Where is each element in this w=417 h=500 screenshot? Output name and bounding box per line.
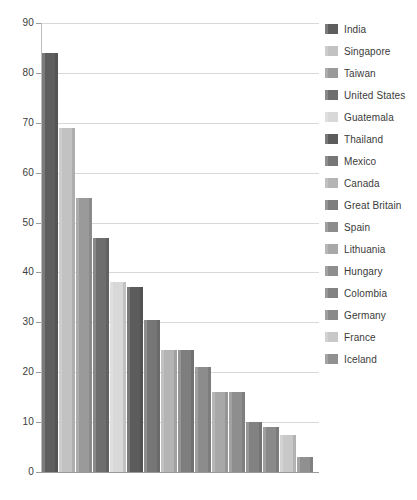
legend-swatch-icon (325, 178, 338, 188)
bar (110, 282, 126, 472)
legend-swatch-icon (325, 134, 338, 144)
legend-swatch-icon (325, 46, 338, 56)
bar (127, 287, 143, 472)
legend-item-label: Canada (344, 178, 380, 189)
bar (280, 435, 296, 472)
bar-chart: 9080706050403020100 IndiaSingaporeTaiwan… (0, 0, 417, 500)
bar (93, 238, 109, 472)
legend-swatch-icon (325, 68, 338, 78)
y-axis-tick-mark (36, 472, 41, 473)
y-axis-tick-label: 70 (4, 118, 34, 128)
legend-item[interactable]: Hungary (325, 260, 417, 282)
y-axis-tick-label: 40 (4, 267, 34, 277)
legend-item-label: Taiwan (344, 68, 376, 79)
y-axis-tick-label: 30 (4, 317, 34, 327)
legend-swatch-icon (325, 266, 338, 276)
bar (178, 350, 194, 472)
y-axis-tick-mark (36, 372, 41, 373)
y-axis-tick-mark (36, 123, 41, 124)
bar (59, 128, 75, 472)
y-axis-tick-mark (36, 272, 41, 273)
legend-item[interactable]: Colombia (325, 282, 417, 304)
legend-item-label: Great Britain (344, 200, 401, 211)
bar (246, 422, 262, 472)
y-axis-tick-label: 50 (4, 218, 34, 228)
legend-item[interactable]: France (325, 326, 417, 348)
bar (212, 392, 228, 472)
legend-item-label: Guatemala (344, 112, 394, 123)
legend-item-label: Germany (344, 310, 386, 321)
y-axis-tick-labels: 9080706050403020100 (0, 0, 34, 500)
legend-swatch-icon (325, 156, 338, 166)
legend-item[interactable]: Taiwan (325, 62, 417, 84)
legend-item-label: France (344, 332, 376, 343)
y-axis-tick-label: 0 (4, 467, 34, 477)
legend: IndiaSingaporeTaiwanUnited StatesGuatema… (325, 18, 417, 370)
legend-swatch-icon (325, 90, 338, 100)
bar (195, 367, 211, 472)
legend-item-label: Singapore (344, 46, 391, 57)
legend-item-label: Mexico (344, 156, 376, 167)
legend-item[interactable]: Guatemala (325, 106, 417, 128)
legend-item[interactable]: Lithuania (325, 238, 417, 260)
legend-item-label: Iceland (344, 354, 377, 365)
legend-swatch-icon (325, 288, 338, 298)
y-axis-tick-mark (36, 223, 41, 224)
legend-swatch-icon (325, 310, 338, 320)
legend-item-label: Lithuania (344, 244, 386, 255)
bar (42, 53, 58, 472)
legend-item[interactable]: Singapore (325, 40, 417, 62)
legend-swatch-icon (325, 24, 338, 34)
x-axis-line (41, 472, 319, 473)
legend-item[interactable]: Canada (325, 172, 417, 194)
legend-swatch-icon (325, 354, 338, 364)
legend-item[interactable]: India (325, 18, 417, 40)
legend-item[interactable]: Great Britain (325, 194, 417, 216)
legend-item-label: India (344, 24, 366, 35)
y-axis-tick-mark (36, 23, 41, 24)
legend-item-label: United States (344, 90, 405, 101)
legend-item-label: Spain (344, 222, 370, 233)
y-axis-tick-mark (36, 422, 41, 423)
y-axis-tick-label: 90 (4, 18, 34, 28)
bar (263, 427, 279, 472)
y-axis-tick-label: 20 (4, 367, 34, 377)
legend-swatch-icon (325, 112, 338, 122)
legend-item-label: Colombia (344, 288, 387, 299)
legend-item-label: Hungary (344, 266, 383, 277)
legend-item[interactable]: Germany (325, 304, 417, 326)
bar (297, 457, 313, 472)
bars-container (42, 23, 319, 472)
legend-item-label: Thailand (344, 134, 383, 145)
y-axis-tick-label: 80 (4, 68, 34, 78)
bar (229, 392, 245, 472)
legend-swatch-icon (325, 332, 338, 342)
legend-item[interactable]: United States (325, 84, 417, 106)
y-axis-tick-mark (36, 322, 41, 323)
legend-item[interactable]: Mexico (325, 150, 417, 172)
legend-swatch-icon (325, 200, 338, 210)
legend-swatch-icon (325, 222, 338, 232)
y-axis-tick-mark (36, 73, 41, 74)
y-axis-tick-label: 60 (4, 168, 34, 178)
y-axis-tick-mark (36, 173, 41, 174)
bar (144, 320, 160, 472)
legend-swatch-icon (325, 244, 338, 254)
bar (76, 198, 92, 472)
bar (161, 350, 177, 472)
legend-item[interactable]: Spain (325, 216, 417, 238)
y-axis-tick-label: 10 (4, 417, 34, 427)
plot-area (42, 23, 319, 472)
legend-item[interactable]: Iceland (325, 348, 417, 370)
legend-item[interactable]: Thailand (325, 128, 417, 150)
